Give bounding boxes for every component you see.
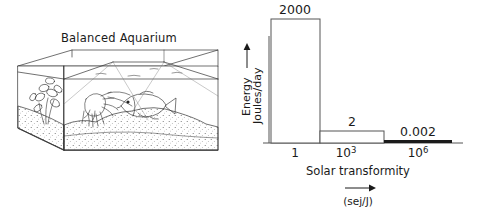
chart-panel: 2000 2 0.002 1 103 106 Solar transformit… [238,0,479,214]
figure-canvas: Balanced Aquarium [0,0,479,214]
x-tick-label-2: 103 [336,145,357,160]
x-axis-unit: (sej/J) [343,195,373,207]
bar-1 [271,19,320,143]
x-tick-label-3: 106 [408,145,429,160]
y-axis-title-group: Energy Joules/day [240,67,264,125]
transformity-bar-chart: 2000 2 0.002 1 103 106 Solar transformit… [238,0,479,214]
bar-2 [320,131,384,143]
x-tick-labels: 1 103 106 [291,145,428,160]
tank-top-rim [18,50,218,66]
bar-3 [384,140,452,143]
x-tick-label-1: 1 [291,146,299,160]
y-axis-arrow [244,43,251,68]
bar-value-label-1: 2000 [279,2,311,17]
bar-value-label-3: 0.002 [400,124,436,139]
x-axis-title: Solar transformity [306,164,410,178]
bar-value-label-2: 2 [348,114,356,129]
y-axis-title-units: Joules/day [251,67,264,125]
x-axis-arrow [345,185,376,192]
aquarium-panel: Balanced Aquarium [0,0,238,214]
aquarium-illustration [0,0,238,214]
